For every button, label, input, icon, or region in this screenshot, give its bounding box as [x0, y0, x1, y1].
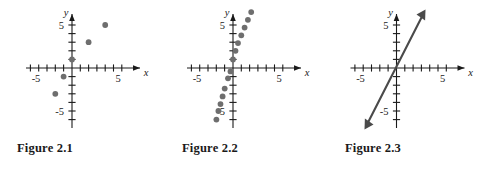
figure-2-1-plot: -5 5 5 -5 x y: [0, 0, 165, 140]
x-axis-label: x: [304, 67, 310, 78]
scatter-points: [52, 22, 108, 97]
x-axis-label: x: [467, 67, 473, 78]
y-axis-label: y: [387, 7, 393, 18]
figure-caption: Figure 2.1: [17, 141, 73, 156]
figure-2-2-plot: -5 5 5 -5 x y: [165, 0, 330, 140]
x-tick-label-negative: -5: [356, 73, 365, 84]
figure-caption: Figure 2.2: [182, 141, 238, 156]
x-tick-label-positive: 5: [276, 73, 281, 84]
y-axis-arrow-icon: [394, 14, 400, 21]
axes-group: [187, 14, 301, 128]
data-point: [225, 75, 231, 81]
x-axis-arrow-icon: [294, 65, 301, 71]
y-tick-label-positive: 5: [59, 20, 64, 31]
figure-2-3: -5 5 5 -5 x y Figure 2.3: [330, 0, 494, 170]
y-tick-label-positive: 5: [220, 20, 225, 31]
x-tick-label-positive: 5: [115, 73, 120, 84]
y-axis-arrow-icon: [69, 14, 75, 21]
y-tick-label-negative: -5: [55, 106, 64, 117]
y-axis-label: y: [63, 7, 69, 18]
x-tick-label-negative: -5: [193, 73, 202, 84]
figure-2-3-plot: -5 5 5 -5 x y: [330, 0, 494, 140]
data-point: [235, 40, 241, 46]
x-axis-arrow-icon: [458, 65, 465, 71]
data-point: [245, 17, 251, 23]
data-point: [238, 32, 244, 38]
y-tick-label-negative: -5: [380, 106, 389, 117]
x-tick-label-negative: -5: [32, 73, 41, 84]
y-tick-label-positive: 5: [383, 20, 388, 31]
data-point: [61, 74, 67, 80]
figure-2-1: -5 5 5 -5 x y Figure 2.1: [0, 0, 165, 170]
data-point: [248, 9, 254, 15]
data-point: [233, 48, 239, 54]
y-axis-arrow-icon: [230, 14, 236, 21]
x-tick-label-positive: 5: [440, 73, 445, 84]
axes-group: [351, 14, 465, 128]
data-point: [220, 94, 226, 100]
data-point: [216, 108, 222, 114]
data-point: [222, 86, 228, 92]
data-point: [86, 39, 92, 45]
data-point: [242, 25, 248, 31]
data-point: [69, 57, 75, 63]
figure-2-2: -5 5 5 -5 x y Figure: [165, 0, 330, 170]
figure-caption: Figure 2.3: [345, 141, 401, 156]
x-axis-arrow-icon: [133, 65, 140, 71]
x-axis-label: x: [143, 67, 149, 78]
y-axis-label: y: [224, 7, 230, 18]
data-point: [214, 117, 220, 123]
data-point: [228, 69, 234, 75]
data-point: [230, 57, 236, 63]
data-point: [52, 91, 58, 97]
data-point: [218, 101, 224, 107]
line-segment: [368, 17, 422, 123]
figure-row: -5 5 5 -5 x y Figure 2.1: [0, 0, 494, 170]
axes-group: [26, 14, 140, 128]
data-point: [102, 22, 108, 28]
